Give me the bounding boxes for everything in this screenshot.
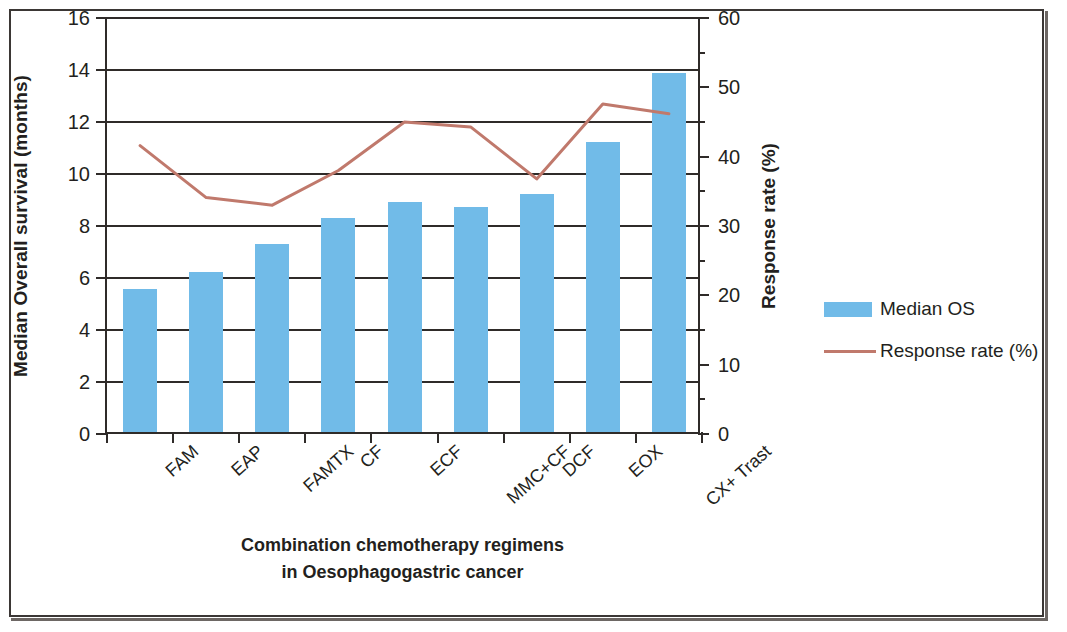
left-axis-tick xyxy=(96,121,107,123)
left-axis-tick-label: 8 xyxy=(79,216,90,236)
left-axis-tick-label: 0 xyxy=(79,424,90,444)
right-axis-tick-label: 60 xyxy=(718,8,740,28)
y-axis-title-right-text: Response rate (%) xyxy=(758,143,780,309)
left-axis-tick-label: 6 xyxy=(79,268,90,288)
x-axis-title-line-1: Combination chemotherapy regimens xyxy=(105,532,700,559)
left-axis-tick xyxy=(96,225,107,227)
line-series-response-rate xyxy=(107,18,702,434)
left-axis-tick xyxy=(96,277,107,279)
right-axis-tick-label: 50 xyxy=(718,77,740,97)
left-axis-tick xyxy=(96,173,107,175)
response-rate-polyline xyxy=(140,104,669,205)
left-axis-tick xyxy=(96,329,107,331)
left-axis-tick xyxy=(96,17,107,19)
legend-item-median-os: Median OS xyxy=(824,288,1039,330)
legend-label-response-rate: Response rate (%) xyxy=(880,340,1038,362)
x-axis-title: Combination chemotherapy regimens in Oes… xyxy=(105,532,700,586)
right-axis-tick-label: 20 xyxy=(718,285,740,305)
legend-label-median-os: Median OS xyxy=(880,298,975,320)
left-axis-tick-label: 16 xyxy=(68,8,90,28)
left-axis-tick xyxy=(96,381,107,383)
x-axis-title-line-2: in Oesophagogastric cancer xyxy=(105,559,700,586)
chart-legend: Median OS Response rate (%) xyxy=(824,288,1039,372)
y-axis-title-left-text: Median Overall survival (months) xyxy=(10,75,32,377)
left-axis-tick-label: 2 xyxy=(79,372,90,392)
plot-area xyxy=(105,18,700,434)
left-axis-tick-label: 4 xyxy=(79,320,90,340)
right-axis-tick-label: 40 xyxy=(718,147,740,167)
legend-line-swatch-icon xyxy=(824,350,880,353)
left-axis-tick-label: 10 xyxy=(68,164,90,184)
left-axis-tick xyxy=(96,69,107,71)
legend-bar-swatch-icon xyxy=(824,302,880,317)
y-axis-title-left: Median Overall survival (months) xyxy=(6,18,36,434)
legend-item-response-rate: Response rate (%) xyxy=(824,330,1039,372)
right-axis-tick-label: 0 xyxy=(718,424,729,444)
right-axis-tick-label: 30 xyxy=(718,216,740,236)
left-axis-tick-label: 14 xyxy=(68,60,90,80)
y-axis-title-right: Response rate (%) xyxy=(754,18,784,434)
chart-figure: Median Overall survival (months) Respons… xyxy=(0,0,1067,632)
right-axis-tick-label: 10 xyxy=(718,355,740,375)
left-axis-tick-label: 12 xyxy=(68,112,90,132)
